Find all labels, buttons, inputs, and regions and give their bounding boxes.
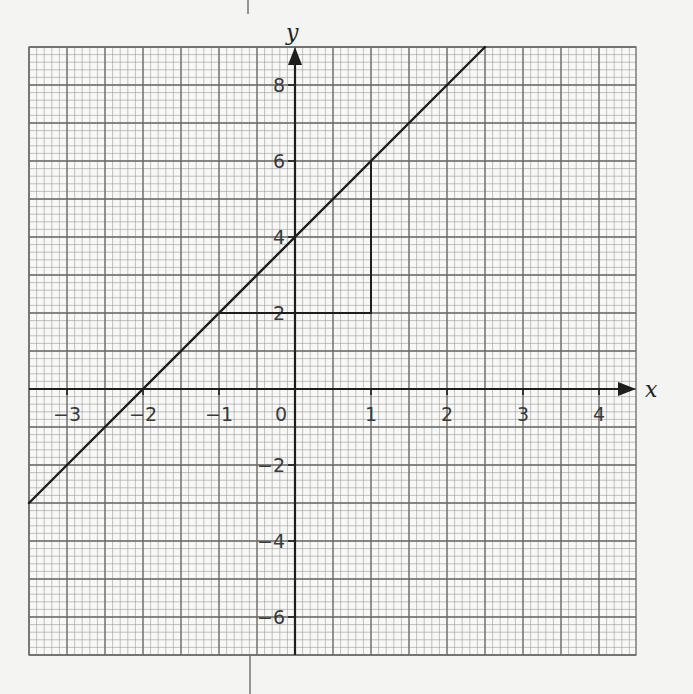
y-tick-label: 6 (273, 150, 285, 172)
x-tick-label: 4 (593, 403, 605, 425)
coordinate-graph: x y −3−2−101234 −6−4−22468 (0, 0, 693, 694)
x-tick-label: −3 (53, 403, 81, 425)
y-tick-label: −6 (257, 606, 285, 628)
y-tick-label: 8 (273, 74, 285, 96)
x-tick-label: −2 (129, 403, 157, 425)
x-tick-label: 2 (441, 403, 453, 425)
y-tick-label: 4 (273, 226, 285, 248)
x-tick-label: 0 (275, 403, 287, 425)
x-tick-label: 1 (365, 403, 377, 425)
y-tick-label: −2 (257, 454, 285, 476)
x-tick-label: −1 (205, 403, 233, 425)
x-axis-label: x (645, 377, 658, 402)
y-tick-label: −4 (257, 530, 285, 552)
y-axis-label: y (285, 20, 299, 45)
x-tick-label: 3 (517, 403, 529, 425)
